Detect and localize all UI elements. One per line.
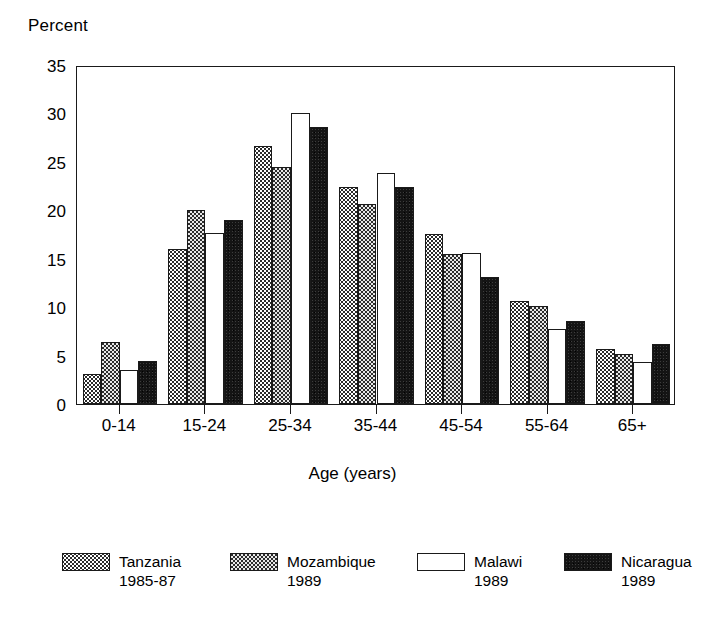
- bar-malawi-0-14: [120, 370, 139, 404]
- bar-mozambique-65+: [615, 354, 634, 404]
- bar-malawi-55-64: [548, 329, 567, 404]
- legend-item-malawi: Malawi1989: [417, 552, 522, 591]
- legend-label-group: Malawi1989: [474, 552, 522, 591]
- bar-mozambique-25-34: [272, 167, 291, 404]
- legend-year: 1989: [474, 571, 522, 590]
- x-tick-label: 15-24: [183, 416, 226, 436]
- plot-area: [76, 66, 675, 405]
- bar-tanzania-35-44: [339, 187, 358, 404]
- legend-label-group: Mozambique1989: [287, 552, 376, 591]
- bar-mozambique-55-64: [529, 306, 548, 404]
- bar-mozambique-15-24: [187, 210, 206, 404]
- y-tick-label: 30: [20, 106, 66, 123]
- x-axis-title: Age (years): [0, 464, 705, 484]
- bar-nicaragua-65+: [652, 344, 671, 404]
- legend-label-group: Nicaragua1989: [621, 552, 692, 591]
- legend-year: 1989: [287, 571, 376, 590]
- x-tick-label: 45-54: [439, 416, 482, 436]
- legend-label-group: Tanzania1985-87: [119, 552, 181, 591]
- x-tick-label: 65+: [618, 416, 647, 436]
- legend-year: 1985-87: [119, 571, 181, 590]
- x-tick-label: 55-64: [525, 416, 568, 436]
- bar-nicaragua-45-54: [481, 277, 500, 404]
- x-tick-mark: [290, 405, 291, 414]
- legend-country-name: Nicaragua: [621, 552, 692, 571]
- legend-swatch-tanzania: [62, 553, 110, 571]
- x-tick-mark: [204, 405, 205, 414]
- legend-swatch-mozambique: [230, 553, 278, 571]
- bar-malawi-15-24: [205, 233, 224, 404]
- bar-tanzania-55-64: [510, 301, 529, 404]
- y-tick-label: 35: [20, 58, 66, 75]
- legend-year: 1989: [621, 571, 692, 590]
- x-tick-label: 0-14: [102, 416, 136, 436]
- legend-country-name: Mozambique: [287, 552, 376, 571]
- x-tick-mark: [547, 405, 548, 414]
- x-tick-label: 35-44: [354, 416, 397, 436]
- y-tick-label: 10: [20, 300, 66, 317]
- x-tick-mark: [119, 405, 120, 414]
- legend-country-name: Malawi: [474, 552, 522, 571]
- legend-swatch-nicaragua: [564, 553, 612, 571]
- bar-nicaragua-25-34: [310, 127, 329, 404]
- chart-legend: Tanzania1985-87Mozambique1989Malawi1989N…: [62, 552, 682, 598]
- y-tick-label: 20: [20, 203, 66, 220]
- bar-malawi-35-44: [377, 173, 396, 404]
- bar-malawi-25-34: [291, 113, 310, 404]
- legend-item-nicaragua: Nicaragua1989: [564, 552, 692, 591]
- bar-mozambique-35-44: [358, 204, 377, 404]
- bar-tanzania-25-34: [254, 146, 273, 404]
- bar-tanzania-65+: [596, 349, 615, 404]
- bar-tanzania-15-24: [168, 249, 187, 404]
- bar-mozambique-0-14: [101, 342, 120, 404]
- bar-tanzania-0-14: [83, 374, 102, 404]
- bar-nicaragua-15-24: [224, 220, 243, 404]
- legend-swatch-malawi: [417, 553, 465, 571]
- y-axis-tick-labels: 05101520253035: [14, 0, 66, 634]
- bar-nicaragua-55-64: [566, 321, 585, 404]
- bar-nicaragua-0-14: [138, 361, 157, 404]
- y-tick-label: 25: [20, 154, 66, 171]
- x-tick-label: 25-34: [268, 416, 311, 436]
- bar-mozambique-45-54: [443, 254, 462, 404]
- bar-malawi-65+: [633, 362, 652, 404]
- x-tick-mark: [376, 405, 377, 414]
- bar-tanzania-45-54: [425, 234, 444, 404]
- x-tick-mark: [461, 405, 462, 414]
- bar-malawi-45-54: [462, 253, 481, 404]
- legend-item-mozambique: Mozambique1989: [230, 552, 376, 591]
- y-tick-label: 0: [20, 397, 66, 414]
- legend-item-tanzania: Tanzania1985-87: [62, 552, 181, 591]
- legend-country-name: Tanzania: [119, 552, 181, 571]
- y-tick-label: 15: [20, 251, 66, 268]
- bar-nicaragua-35-44: [395, 187, 414, 404]
- y-tick-label: 5: [20, 348, 66, 365]
- x-tick-mark: [632, 405, 633, 414]
